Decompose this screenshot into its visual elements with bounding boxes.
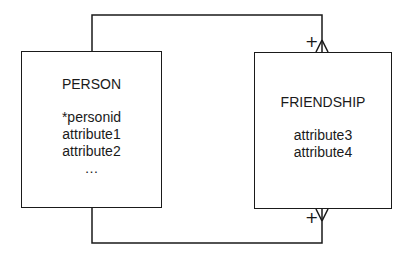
entity-person-attribute: attribute2 bbox=[22, 143, 161, 160]
bottom-one-marker: + bbox=[305, 210, 318, 226]
entity-friendship-attribute: attribute3 bbox=[255, 127, 391, 144]
entity-person-title: PERSON bbox=[22, 76, 161, 93]
entity-person-attribute: attribute1 bbox=[22, 126, 161, 143]
entity-person-attribute-ellipsis: … bbox=[22, 160, 161, 177]
entity-friendship-title: FRIENDSHIP bbox=[255, 94, 391, 111]
bottom-relationship-line bbox=[92, 207, 322, 243]
entity-friendship: FRIENDSHIP attribute3 attribute4 bbox=[254, 52, 392, 209]
entity-friendship-attribute: attribute4 bbox=[255, 144, 391, 161]
entity-person-attribute: *personid bbox=[22, 109, 161, 126]
entity-person: PERSON *personid attribute1 attribute2 … bbox=[21, 51, 162, 208]
er-diagram: + + PERSON *personid attribute1 attribut… bbox=[0, 0, 410, 259]
top-relationship-line bbox=[92, 15, 322, 52]
top-one-marker: + bbox=[305, 34, 318, 50]
